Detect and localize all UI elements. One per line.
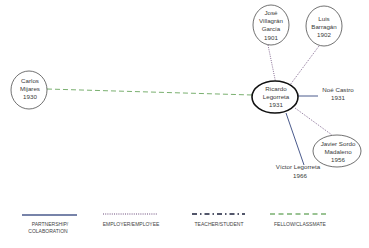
- node-label-line: Javier Sordo: [321, 140, 356, 147]
- node-label-line: 1931: [269, 101, 283, 108]
- node-label-line: García: [262, 25, 281, 32]
- node-label-line: 1901: [264, 34, 278, 41]
- legend-label: TEACHER/STUDENT: [195, 221, 244, 227]
- node-noe-castro[interactable]: Noé Castro 1931: [322, 86, 354, 101]
- node-label-line: Luis: [318, 15, 329, 22]
- legend-item-partnership: PARTNERSHIP/ COLABORATION: [22, 215, 77, 234]
- node-label-line: Carlos: [21, 77, 39, 84]
- legend-label: PARTNERSHIP/: [32, 221, 69, 227]
- legend-label: FELLOW/CLASSMATE: [274, 221, 327, 227]
- node-label-line: 1931: [331, 94, 345, 101]
- node-label-line: Mijares: [20, 85, 40, 92]
- node-label-line: 1902: [317, 31, 331, 38]
- svg-text:Legorreta: Legorreta: [263, 93, 290, 100]
- node-label-line: 1966: [293, 172, 307, 179]
- node-victor-legorreta[interactable]: Víctor Legorreta 1966: [276, 163, 321, 179]
- node-carlos-mijares[interactable]: Carlos Mijares 1930: [11, 71, 47, 109]
- node-label-line: Noé Castro: [322, 86, 354, 93]
- edge-victor-partnership: [286, 113, 304, 165]
- legend-label: EMPLOYER/EMPLOYEE: [103, 221, 160, 227]
- legend-label: COLABORATION: [28, 228, 68, 234]
- node-luis-barragan[interactable]: Luis Barragán 1902: [306, 6, 342, 46]
- node-label-line: Legorreta: [263, 93, 290, 100]
- edge-villagran-employer: [268, 45, 276, 84]
- legend-item-teacher: TEACHER/STUDENT: [192, 214, 245, 227]
- node-label-line: Madaleno: [324, 148, 352, 155]
- node-label-line: 1930: [23, 93, 37, 100]
- legend-item-employer: EMPLOYER/EMPLOYEE: [103, 214, 160, 227]
- edge-barragan-employer: [290, 46, 319, 85]
- svg-text:1931: 1931: [269, 101, 283, 108]
- edge-mijares-fellow: [47, 89, 252, 95]
- node-ricardo-legorreta[interactable]: Ricardo Legorreta 1931: [252, 81, 298, 113]
- node-label-line: 1956: [331, 156, 345, 163]
- node-label-line: Ricardo: [265, 85, 287, 92]
- node-jose-villagran-garcia[interactable]: José Villagrán García 1901: [253, 5, 289, 45]
- node-label-line: Víctor Legorreta: [276, 163, 321, 170]
- legend: PARTNERSHIP/ COLABORATION EMPLOYER/EMPLO…: [22, 214, 328, 234]
- node-label-line: José: [264, 9, 278, 16]
- svg-text:Ricardo: Ricardo: [265, 85, 287, 92]
- influence-diagram: Ricardo Legorreta 1931 José Villagrán Ga…: [0, 0, 369, 248]
- node-label-line: Villagrán: [259, 17, 284, 24]
- node-label-line: Barragán: [311, 23, 337, 30]
- node-javier-sordo-madaleno[interactable]: Javier Sordo Madaleno 1956: [313, 135, 361, 167]
- legend-item-fellow: FELLOW/CLASSMATE: [270, 214, 328, 227]
- edge-sordo-employer: [295, 108, 332, 135]
